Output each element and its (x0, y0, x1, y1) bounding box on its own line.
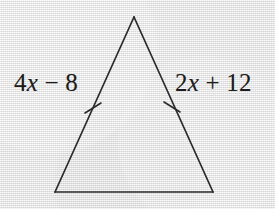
right-label-variable: x (188, 69, 199, 96)
right-label-constant: 12 (226, 69, 251, 96)
right-side-length-label: 2x + 12 (175, 70, 252, 95)
geometry-figure: 4x − 8 2x + 12 (0, 0, 275, 209)
left-leg-congruence-tick-icon (85, 103, 101, 113)
right-label-operator: + (205, 69, 219, 96)
right-label-coefficient: 2 (175, 69, 188, 96)
left-label-variable: x (27, 69, 38, 96)
triangle-right-side (134, 17, 213, 192)
left-label-constant: 8 (65, 69, 78, 96)
left-label-operator: − (44, 69, 58, 96)
triangle-left-side (55, 17, 134, 192)
right-leg-congruence-tick-icon (164, 102, 180, 112)
left-side-length-label: 4x − 8 (14, 70, 78, 95)
left-label-coefficient: 4 (14, 69, 27, 96)
triangle-drawing (0, 0, 275, 209)
